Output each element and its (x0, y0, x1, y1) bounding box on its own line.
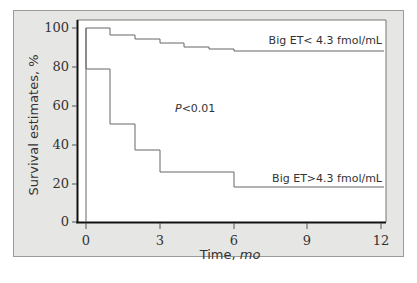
x-axis-title: Time, mo (199, 247, 261, 262)
svg-text:40: 40 (52, 137, 69, 152)
svg-text:12: 12 (373, 233, 390, 248)
svg-text:0: 0 (61, 214, 69, 229)
svg-text:100: 100 (44, 20, 69, 35)
svg-text:6: 6 (230, 233, 238, 248)
x-ticks (86, 223, 381, 229)
y-ticks (72, 28, 77, 222)
plot-area (77, 20, 386, 222)
svg-text:20: 20 (52, 176, 69, 191)
y-tick-labels: 100 80 60 40 20 0 (44, 20, 69, 229)
series-high-label: Big ET>4.3 fmol/mL (272, 172, 383, 185)
svg-text:3: 3 (156, 233, 164, 248)
svg-text:60: 60 (52, 98, 69, 113)
svg-text:9: 9 (303, 233, 311, 248)
series-low-label: Big ET< 4.3 fmol/mL (269, 34, 383, 47)
p-value-annotation: P<0.01 (175, 102, 215, 115)
x-tick-labels: 0 3 6 9 12 (82, 233, 389, 248)
survival-chart: 100 80 60 40 20 0 0 3 6 9 12 Time, mo Su… (0, 0, 417, 283)
svg-text:80: 80 (52, 59, 69, 74)
y-axis-title: Survival estimates, % (26, 54, 41, 195)
svg-text:0: 0 (82, 233, 90, 248)
